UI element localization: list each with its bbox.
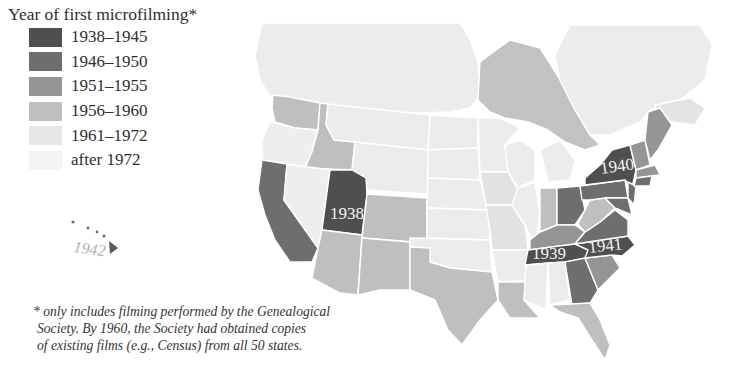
legend-swatch [29,28,62,47]
label-tennessee: 1939 [532,244,566,263]
label-north-carolina: 1941 [587,235,623,257]
legend-item: 1951–1955 [8,74,197,99]
legend-item: 1938–1945 [8,25,197,50]
state-kansas [427,208,490,240]
state-arizona [312,230,362,295]
legend-swatch [29,77,62,96]
state-north-dakota [428,115,478,150]
legend-item: 1946–1950 [8,50,197,75]
footnote-line: * only includes filming performed by the… [33,303,330,320]
hawaii-island-maui [102,234,105,237]
legend-item: 1956–1960 [8,99,197,124]
label-utah: 1938 [330,204,364,223]
legend-swatch [29,151,62,170]
legend-label: 1938–1945 [71,27,148,47]
legend-label: 1946–1950 [71,52,148,72]
state-utah [322,170,367,235]
legend-label: 1956–1960 [71,101,148,121]
state-mississippi [524,263,548,310]
state-south-dakota [428,148,480,180]
legend: Year of first microfilming* 1938–1945 19… [8,3,197,173]
state-new-mexico [358,238,410,295]
legend-swatch [29,52,62,71]
hawaii-island-kauai [71,220,74,223]
state-florida [550,303,610,360]
footnote-line: of existing films (e.g., Census) from al… [37,337,330,354]
footnote: * only includes filming performed by the… [33,303,330,354]
state-arkansas [492,250,528,282]
label-hawaii: 1942 [73,238,107,259]
hawaii-big-island [109,241,118,254]
legend-title: Year of first microfilming* [8,3,197,25]
hawaii-island-molokai [96,231,99,234]
hawaii-island-oahu [87,227,90,230]
legend-item: 1961–1972 [8,123,197,148]
state-michigan [540,140,575,182]
state-colorado [362,194,427,243]
state-nebraska [427,178,488,210]
legend-label: after 1972 [71,150,140,170]
legend-item: after 1972 [8,148,197,173]
legend-swatch [29,102,62,121]
legend-label: 1961–1972 [71,126,148,146]
state-connecticut [634,176,652,186]
footnote-line: Society. By 1960, the Society had obtain… [37,320,330,337]
legend-label: 1951–1955 [71,76,148,96]
legend-swatch [29,126,62,145]
